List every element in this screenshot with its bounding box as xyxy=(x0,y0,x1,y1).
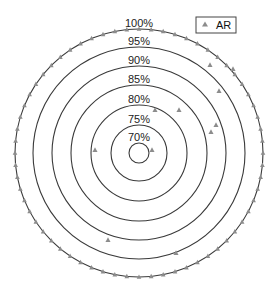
triangle-marker-icon xyxy=(246,209,251,213)
triangle-marker-icon xyxy=(230,66,235,71)
triangle-marker-icon xyxy=(92,147,97,152)
triangle-marker-icon xyxy=(15,126,20,130)
triangle-marker-icon xyxy=(13,163,18,167)
triangle-marker-icon xyxy=(206,254,211,258)
triangle-marker-icon xyxy=(251,198,256,202)
triangle-marker-icon xyxy=(105,237,110,242)
triangle-marker-icon xyxy=(18,114,23,118)
ring-label: 70% xyxy=(128,131,150,143)
ring-label: 75% xyxy=(128,113,150,125)
triangle-marker-icon xyxy=(68,254,73,258)
ring-labels-group: 100%95%90%85%80%75%70% xyxy=(125,17,153,143)
triangle-marker-icon xyxy=(15,175,20,179)
triangle-marker-icon xyxy=(68,47,73,51)
triangle-marker-icon xyxy=(207,62,212,67)
triangle-marker-icon xyxy=(260,138,265,142)
legend: AR xyxy=(196,17,236,33)
triangle-marker-icon xyxy=(13,150,18,154)
triangle-marker-icon xyxy=(260,163,265,167)
triangle-marker-icon xyxy=(261,150,266,154)
polar-chart: 100%95%90%85%80%75%70% AR xyxy=(0,0,279,293)
triangle-marker-icon xyxy=(213,122,218,127)
triangle-marker-icon xyxy=(216,88,221,93)
ring-label: 90% xyxy=(128,54,150,66)
triangle-marker-icon xyxy=(208,129,213,134)
triangle-marker-icon xyxy=(13,138,18,142)
ring-label: 85% xyxy=(128,73,150,85)
triangle-marker-icon xyxy=(255,114,260,118)
triangle-marker-icon xyxy=(258,175,263,179)
legend-label: AR xyxy=(216,19,231,31)
triangle-marker-icon xyxy=(251,103,256,107)
ring-label: 80% xyxy=(128,93,150,105)
triangle-marker-icon xyxy=(255,186,260,190)
triangle-marker-icon xyxy=(22,103,27,107)
ring-70 xyxy=(129,143,149,163)
triangle-marker-icon xyxy=(149,147,154,152)
triangle-marker-icon xyxy=(18,186,23,190)
triangle-marker-icon xyxy=(27,209,32,213)
triangle-marker-icon xyxy=(258,126,263,130)
triangle-marker-icon xyxy=(206,47,211,51)
triangle-marker-icon xyxy=(22,198,27,202)
ring-label: 95% xyxy=(128,35,150,47)
triangle-marker-icon xyxy=(176,107,181,112)
